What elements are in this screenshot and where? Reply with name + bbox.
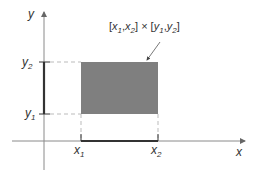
region-label: [x1,x2] × [y1,y2] <box>109 20 180 35</box>
x-interval <box>81 134 158 141</box>
x-axis-label: x <box>235 145 243 159</box>
label-pointer-arrow <box>147 42 160 60</box>
y1-label: y1 <box>24 106 35 122</box>
x2-label: x2 <box>150 143 162 159</box>
y-axis-label: y <box>27 7 35 21</box>
cartesian-product-diagram: y x y2 y1 x1 x2 [x1,x2] × [y1,y2] <box>0 0 261 176</box>
x1-label: x1 <box>73 143 84 159</box>
y-interval <box>39 62 50 114</box>
y2-label: y2 <box>21 55 33 71</box>
product-rectangle <box>81 62 158 114</box>
